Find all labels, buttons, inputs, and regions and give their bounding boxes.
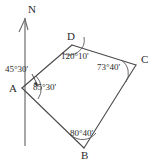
angle-label-a: 85°30' — [33, 83, 56, 92]
north-arrow-icon — [19, 19, 28, 32]
edge-ba — [22, 88, 84, 148]
geometry-diagram: N A B C D 45°30' 85°30' 80°40' 73°40' 12… — [0, 0, 156, 168]
diagram-canvas — [0, 0, 156, 168]
angle-label-d: 120°10' — [61, 52, 89, 61]
angle-label-bearing: 45°30' — [5, 65, 28, 74]
vertex-label-d: D — [67, 31, 75, 42]
vertex-label-c: C — [141, 54, 148, 65]
angle-label-b: 80°40' — [70, 129, 93, 138]
angle-arc-c — [121, 60, 128, 82]
north-label: N — [28, 4, 36, 15]
angle-label-c: 73°40' — [97, 63, 120, 72]
vertex-label-b: B — [81, 150, 88, 161]
vertex-label-a: A — [9, 83, 17, 94]
